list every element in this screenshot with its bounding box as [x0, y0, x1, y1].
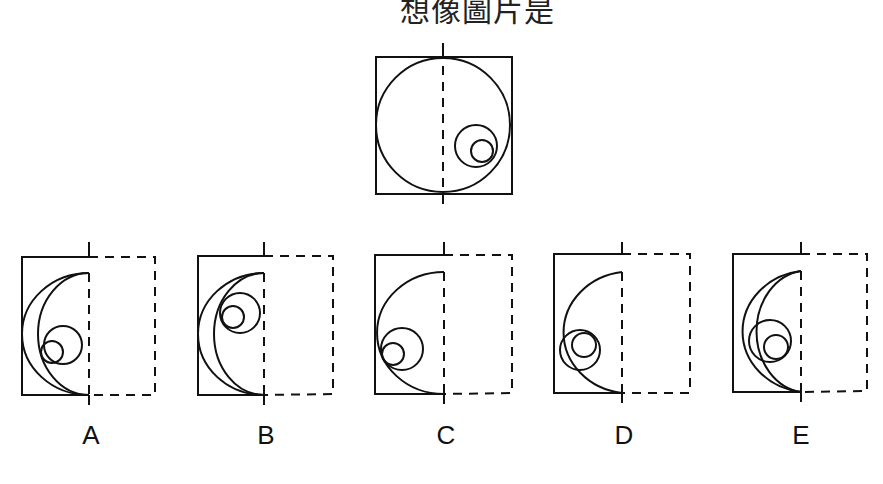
option-label-d[interactable]: D	[609, 420, 639, 451]
option-d-figure[interactable]	[554, 242, 690, 403]
option-label-c[interactable]: C	[431, 420, 461, 451]
puzzle-figures	[0, 0, 883, 484]
option-label-e[interactable]: E	[786, 420, 816, 451]
main-figure	[376, 43, 512, 204]
option-label-b[interactable]: B	[251, 420, 281, 451]
option-label-a[interactable]: A	[76, 420, 106, 451]
option-a-figure[interactable]	[22, 242, 155, 405]
option-c-figure[interactable]	[375, 242, 512, 404]
option-b-figure[interactable]	[198, 242, 333, 405]
option-e-figure[interactable]	[733, 242, 867, 402]
